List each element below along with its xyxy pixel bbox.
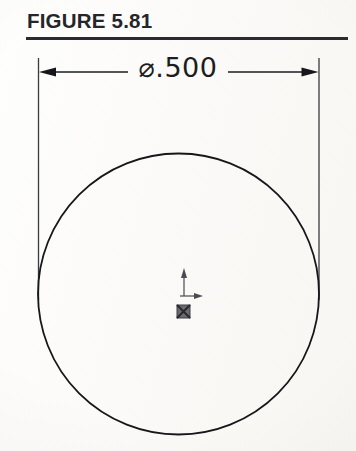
diameter-dimension-label: ⌀.500 <box>126 54 230 81</box>
cad-origin-triad <box>177 268 203 318</box>
origin-x-axis-arrowhead <box>194 293 203 299</box>
figure-page: FIGURE 5.81 ⌀.500 <box>0 0 356 451</box>
arrowhead-left <box>39 68 56 77</box>
arrowhead-right <box>302 68 319 77</box>
origin-y-axis-arrowhead <box>181 268 187 278</box>
circle-profile <box>38 154 319 435</box>
